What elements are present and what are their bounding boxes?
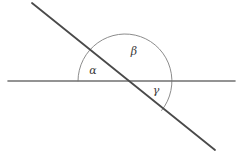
angle-label-gamma: γ <box>153 84 160 97</box>
angle-label-alpha: α <box>89 64 97 77</box>
angles-diagram-canvas: α β γ <box>0 0 242 161</box>
angle-label-beta: β <box>130 45 137 58</box>
geometry-figure: α β γ <box>0 0 242 161</box>
diagonal-line <box>32 3 215 150</box>
